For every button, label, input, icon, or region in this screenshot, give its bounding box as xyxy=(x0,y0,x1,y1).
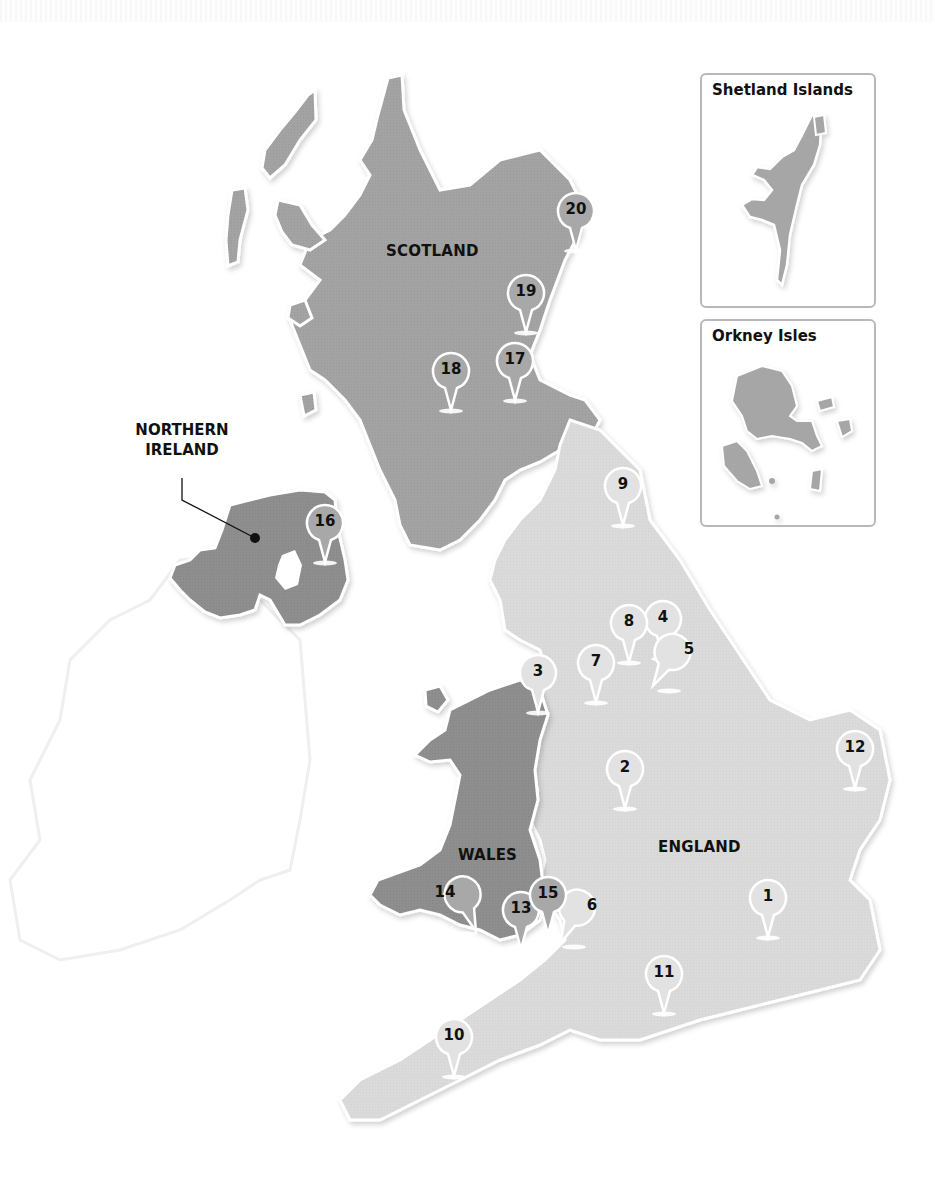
map-pin-3[interactable]: 3 xyxy=(518,654,558,716)
map-pin-11[interactable]: 11 xyxy=(644,955,684,1017)
orkney-isles-shape xyxy=(702,321,878,529)
region-label-england: ENGLAND xyxy=(658,838,741,856)
region-label-northern-ireland: NORTHERN IRELAND xyxy=(130,420,234,460)
inset-shetland: Shetland Islands xyxy=(700,73,876,308)
map-pin-2[interactable]: 2 xyxy=(605,750,645,812)
island-islay xyxy=(300,392,316,416)
map-pin-16[interactable]: 16 xyxy=(305,504,345,566)
map-pin-19[interactable]: 19 xyxy=(506,274,546,336)
region-label-wales: WALES xyxy=(458,846,517,864)
island-uist xyxy=(226,188,248,266)
inset-orkney: Orkney Isles xyxy=(700,319,876,527)
island-lewis xyxy=(262,90,316,178)
map-pin-10[interactable]: 10 xyxy=(434,1018,474,1080)
map-pin-15[interactable]: 15 xyxy=(528,876,568,938)
ireland-outline xyxy=(10,555,310,960)
northern-ireland-leader-dot xyxy=(250,533,260,543)
map-pin-1[interactable]: 1 xyxy=(748,879,788,941)
region-label-scotland: SCOTLAND xyxy=(386,242,479,260)
map-pin-17[interactable]: 17 xyxy=(495,342,535,404)
map-pin-5[interactable]: 5 xyxy=(649,632,689,694)
shetland-islands-shape xyxy=(702,75,878,310)
map-pin-18[interactable]: 18 xyxy=(431,352,471,414)
map-pin-14[interactable]: 14 xyxy=(445,875,485,937)
map-pin-12[interactable]: 12 xyxy=(835,730,875,792)
map-pin-9[interactable]: 9 xyxy=(603,467,643,529)
island-anglesey xyxy=(425,686,448,712)
island-skye xyxy=(275,200,325,250)
map-pin-20[interactable]: 20 xyxy=(556,192,596,254)
map-pin-8[interactable]: 8 xyxy=(609,604,649,666)
